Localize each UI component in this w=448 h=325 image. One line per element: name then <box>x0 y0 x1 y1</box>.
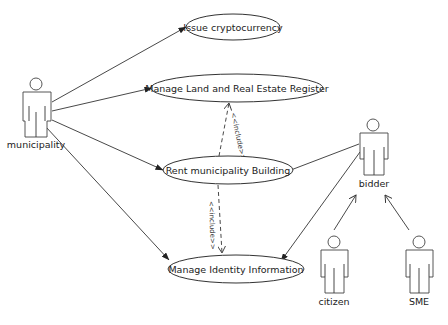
generalization-sme-bidder <box>385 195 409 230</box>
actor-icon <box>23 78 51 137</box>
use-case-manage-identity[interactable]: Manage Identity Information <box>168 255 304 283</box>
include-rent-identity: <<include>> <box>207 185 222 253</box>
include-label-lower: <<include>> <box>207 201 217 250</box>
include-label-upper: <<include>> <box>229 112 247 162</box>
actor-citizen[interactable]: citizen <box>318 236 349 307</box>
include-rent-land: <<include>> <box>219 103 247 161</box>
use-case-label: Issue cryptocurrency <box>183 22 283 33</box>
use-case-issue-cryptocurrency[interactable]: Issue cryptocurrency <box>183 14 283 40</box>
use-case-manage-land-register[interactable]: Manage Land and Real Estate Register <box>145 74 329 102</box>
actor-icon <box>406 236 433 293</box>
actor-bidder[interactable]: bidder <box>359 119 390 189</box>
actor-sme[interactable]: SME <box>406 236 433 307</box>
use-case-label: Manage Land and Real Estate Register <box>145 83 329 94</box>
use-case-label: Rent municipality Building <box>166 165 291 176</box>
actor-label: SME <box>409 296 429 307</box>
association-municipality-rent <box>52 120 163 170</box>
actor-icon <box>321 236 348 293</box>
use-case-diagram: <<include>> <<include>> Issue cryptocurr… <box>0 0 448 325</box>
actor-label: bidder <box>359 178 390 189</box>
use-case-label: Manage Identity Information <box>168 264 303 275</box>
actor-label: municipality <box>7 139 66 150</box>
use-case-rent-building[interactable]: Rent municipality Building <box>163 156 293 184</box>
generalization-citizen-bidder <box>334 195 356 230</box>
actor-label: citizen <box>318 296 349 307</box>
association-municipality-land <box>52 88 152 111</box>
actor-municipality[interactable]: municipality <box>7 78 66 150</box>
actor-icon <box>360 119 388 175</box>
